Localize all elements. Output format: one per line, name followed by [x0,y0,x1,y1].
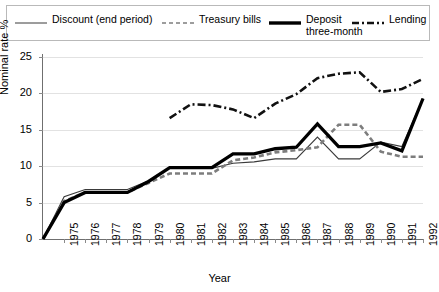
series-line-dash-dot [170,72,423,118]
series-line-thick-solid [43,99,423,240]
series-line-dashed [43,125,423,239]
series-line-thin-solid [43,99,423,240]
nominal-interest-rate-chart: Discount (end period) Treasury bills Dep… [0,0,439,292]
plot-area [0,0,439,292]
